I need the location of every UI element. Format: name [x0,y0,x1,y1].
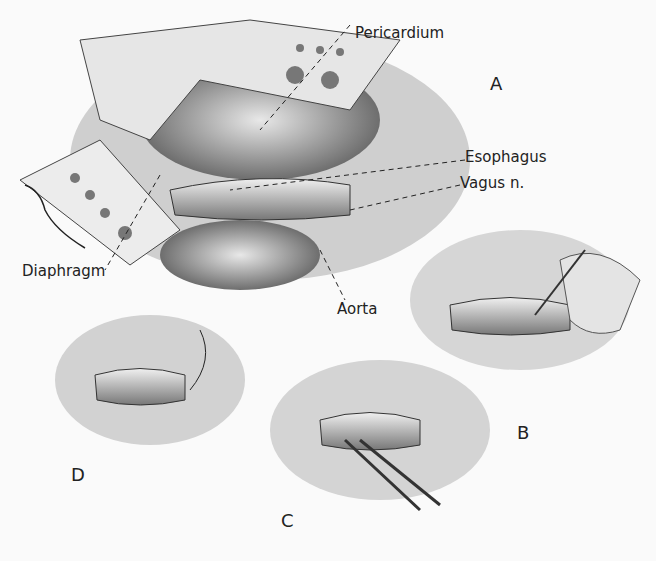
surgical-illustration: Pericardium Esophagus Vagus n. Diaphragm… [0,0,656,561]
panel-b-drawing [410,230,640,370]
label-aorta: Aorta [337,300,377,318]
label-pericardium: Pericardium [355,24,444,42]
illustration-drawing [0,0,656,561]
panel-d-drawing [55,315,245,445]
panel-label-b: B [517,422,529,443]
label-vagus-nerve: Vagus n. [460,174,524,192]
panel-label-d: D [71,464,85,485]
label-esophagus: Esophagus [465,148,547,166]
panel-c-drawing [270,360,490,510]
label-diaphragm: Diaphragm [22,262,105,280]
panel-a-drawing [20,20,470,300]
panel-label-a: A [490,73,502,94]
panel-label-c: C [281,510,294,531]
